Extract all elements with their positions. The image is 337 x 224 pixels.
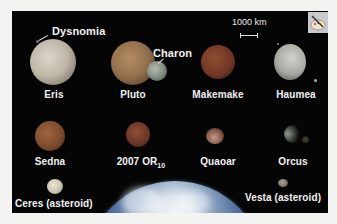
- ceres-label: Ceres (asteroid): [15, 198, 93, 209]
- eris-label: Eris: [44, 89, 63, 100]
- 2007-or10-label-subscript: 10: [157, 162, 165, 169]
- haumea-moon-image: [314, 79, 317, 82]
- dysnomia-label: Dysnomia: [52, 25, 105, 37]
- haumea-image: [274, 44, 306, 80]
- scale-bar-label: 1000 km: [232, 17, 267, 27]
- quaoar-label: Quaoar: [200, 156, 236, 167]
- earth-clouds: [122, 187, 162, 213]
- palette-icon[interactable]: [308, 12, 328, 33]
- eris-image: [30, 39, 76, 85]
- vesta-label: Vesta (asteroid): [245, 192, 321, 203]
- haumea-label: Haumea: [276, 89, 316, 100]
- makemake-image: [201, 45, 235, 79]
- orcus-image: [284, 125, 302, 143]
- pluto-label: Pluto: [120, 89, 146, 100]
- earth-clouds: [177, 191, 211, 213]
- pluto-image: [111, 41, 155, 85]
- vanth-image: [302, 136, 309, 143]
- 2007-or10-label: 2007 OR10: [117, 156, 166, 169]
- makemake-label: Makemake: [192, 89, 243, 100]
- 2007-or10-label-text: 2007 OR: [117, 156, 158, 167]
- scale-bar: [240, 35, 258, 36]
- sedna-image: [35, 121, 65, 151]
- quaoar-image: [206, 128, 224, 144]
- 2007-or10-image: [126, 122, 150, 147]
- dwarf-planets-panel: Dysnomia Eris Charon Pluto Makemake Haum…: [12, 11, 328, 213]
- scale-bar-tick: [257, 33, 258, 38]
- charon-label: Charon: [153, 47, 192, 59]
- charon-image: [147, 61, 167, 81]
- scale-bar-tick: [240, 33, 241, 38]
- vesta-image: [278, 179, 288, 187]
- palette-icon-glyph: [308, 12, 328, 33]
- ceres-image: [47, 179, 63, 194]
- haumea-moon-image: [277, 43, 279, 45]
- sedna-label: Sedna: [35, 156, 66, 167]
- earth-image: [85, 181, 265, 213]
- orcus-label: Orcus: [278, 156, 307, 167]
